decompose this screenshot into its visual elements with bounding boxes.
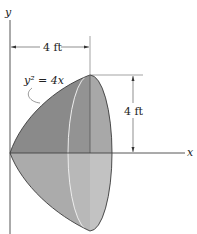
x-axis-label: x	[187, 146, 194, 159]
curve-equation-label: y² = 4x	[23, 74, 65, 87]
dim-top-label: 4 ft	[43, 41, 63, 54]
arrow-right-icon	[84, 46, 89, 49]
arrow-left-icon	[11, 46, 16, 49]
dim-right-label: 4 ft	[124, 105, 144, 118]
arrow-up-icon	[132, 76, 135, 81]
equation-leader-line	[28, 88, 40, 103]
y-axis-label: y	[4, 6, 12, 19]
paraboloid-diagram: y x 4 ft 4 ft y² = 4x	[0, 0, 197, 234]
arrow-down-icon	[132, 147, 135, 152]
